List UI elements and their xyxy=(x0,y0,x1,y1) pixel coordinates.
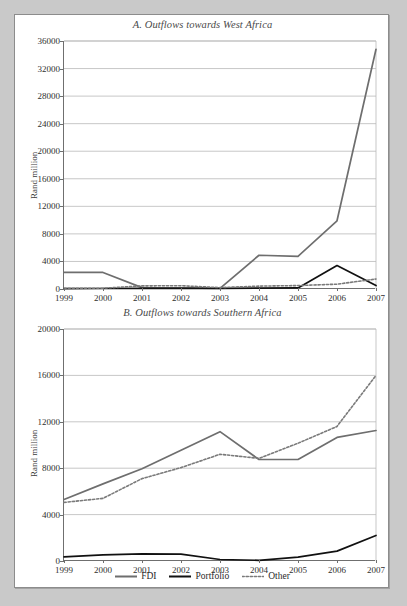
chart-a-plot-area: 0400080001200016000200002400028000320003… xyxy=(63,41,375,289)
series-line-other xyxy=(64,375,376,502)
legend-item-portfolio: Portfolio xyxy=(169,571,229,581)
x-tick-mark xyxy=(103,560,104,563)
x-tick-mark xyxy=(337,560,338,563)
series-line-fdi xyxy=(64,49,376,288)
x-tick-label: 2005 xyxy=(289,293,307,303)
y-tick-label: 16000 xyxy=(38,370,61,380)
y-tick-label: 12000 xyxy=(38,201,61,211)
series-line-other xyxy=(64,279,376,288)
x-tick-mark xyxy=(64,560,65,563)
legend-swatch-fdi-icon xyxy=(115,572,137,581)
y-tick-label: 20000 xyxy=(38,146,61,156)
y-tick-mark xyxy=(60,422,64,423)
x-tick-mark xyxy=(337,288,338,291)
y-tick-mark xyxy=(60,375,64,376)
series-line-fdi xyxy=(64,431,376,500)
x-tick-mark xyxy=(64,288,65,291)
y-tick-mark xyxy=(60,179,64,180)
y-tick-mark xyxy=(60,234,64,235)
y-tick-label: 12000 xyxy=(38,417,61,427)
x-tick-label: 2002 xyxy=(172,293,190,303)
y-tick-mark xyxy=(60,206,64,207)
legend-swatch-other-icon xyxy=(242,572,264,581)
x-tick-label: 2000 xyxy=(94,293,112,303)
x-tick-mark xyxy=(259,560,260,563)
y-tick-mark xyxy=(60,329,64,330)
x-tick-mark xyxy=(181,288,182,291)
chart-panel-a: A. Outflows towards West Africa Rand mil… xyxy=(15,19,390,305)
y-tick-mark xyxy=(60,515,64,516)
x-tick-mark xyxy=(376,288,377,291)
x-tick-mark xyxy=(220,288,221,291)
y-tick-label: 4000 xyxy=(42,510,60,520)
x-tick-mark xyxy=(259,288,260,291)
series-line-portfolio xyxy=(64,535,376,560)
legend-swatch-portfolio-icon xyxy=(169,572,191,581)
legend-item-other: Other xyxy=(242,571,290,581)
chart-legend: FDIPortfolioOther xyxy=(15,571,390,581)
chart-panel-b: B. Outflows towards Southern Africa Rand… xyxy=(15,307,390,587)
y-tick-label: 8000 xyxy=(42,229,60,239)
series-line-portfolio xyxy=(64,266,376,289)
x-tick-label: 2001 xyxy=(133,293,151,303)
legend-label: FDI xyxy=(141,571,156,581)
y-tick-label: 16000 xyxy=(38,174,61,184)
y-tick-label: 28000 xyxy=(38,91,61,101)
y-tick-mark xyxy=(60,151,64,152)
figure-frame: A. Outflows towards West Africa Rand mil… xyxy=(14,14,389,588)
x-tick-label: 2006 xyxy=(328,293,346,303)
y-tick-mark xyxy=(60,96,64,97)
y-tick-label: 4000 xyxy=(42,256,60,266)
y-tick-label: 36000 xyxy=(38,36,61,46)
x-tick-label: 1999 xyxy=(55,293,73,303)
legend-label: Other xyxy=(268,571,290,581)
x-tick-mark xyxy=(298,560,299,563)
y-tick-label: 24000 xyxy=(38,119,61,129)
y-tick-mark xyxy=(60,468,64,469)
y-tick-label: 20000 xyxy=(38,324,61,334)
x-tick-mark xyxy=(298,288,299,291)
legend-label: Portfolio xyxy=(195,571,229,581)
chart-a-title: A. Outflows towards West Africa xyxy=(15,19,390,30)
x-tick-mark xyxy=(142,560,143,563)
y-tick-mark xyxy=(60,41,64,42)
y-tick-mark xyxy=(60,261,64,262)
x-tick-mark xyxy=(103,288,104,291)
x-tick-mark xyxy=(220,560,221,563)
y-tick-label: 8000 xyxy=(42,463,60,473)
chart-b-series-canvas xyxy=(64,329,376,561)
chart-b-y-axis-title: Rand million xyxy=(29,430,39,477)
chart-b-plot-area: 0400080001200016000200001999200020012002… xyxy=(63,329,375,561)
x-tick-mark xyxy=(142,288,143,291)
x-tick-mark xyxy=(181,560,182,563)
x-tick-mark xyxy=(376,560,377,563)
x-tick-label: 2004 xyxy=(250,293,268,303)
y-tick-mark xyxy=(60,69,64,70)
y-tick-label: 32000 xyxy=(38,64,61,74)
y-tick-mark xyxy=(60,124,64,125)
chart-b-title: B. Outflows towards Southern Africa xyxy=(15,307,390,318)
legend-item-fdi: FDI xyxy=(115,571,156,581)
x-tick-label: 2007 xyxy=(367,293,385,303)
chart-a-series-canvas xyxy=(64,41,376,289)
x-tick-label: 2003 xyxy=(211,293,229,303)
